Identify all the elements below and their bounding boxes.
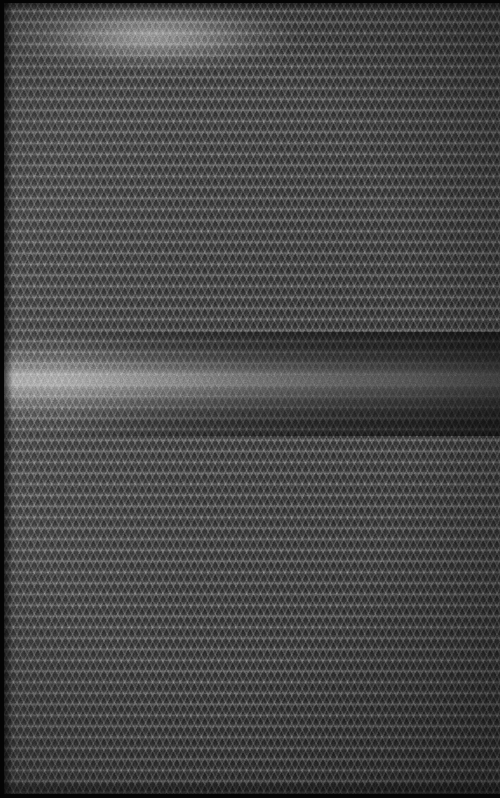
vignette-layer: [0, 0, 500, 798]
left-edge-falloff: [4, 0, 13, 798]
frame-edge-left: [0, 0, 4, 798]
diamond-lattice-layer: [0, 0, 500, 798]
weft-row-layer: [0, 0, 500, 798]
weave-cell-shadow-layer: [0, 0, 500, 798]
warp-thread-layer: [0, 0, 500, 798]
fabric-base-layer: [0, 0, 500, 798]
specular-glare-band: [0, 332, 500, 436]
frame-edge-bottom: [0, 794, 500, 798]
glare-falloff-layer: [0, 332, 500, 436]
frame-edge-top: [0, 0, 500, 3]
glare-hotspot: [0, 0, 300, 72]
film-grain-layer: [0, 0, 500, 798]
bottom-edge-falloff: [0, 780, 500, 794]
lateral-shading-layer: [0, 0, 500, 798]
texture-photograph: Extreme close-up of a dark charcoal gray…: [0, 0, 500, 798]
